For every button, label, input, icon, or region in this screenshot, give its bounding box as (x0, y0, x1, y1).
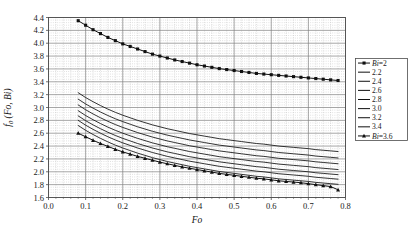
x-tick-label: 0.6 (266, 201, 277, 211)
data-point-marker (299, 76, 302, 79)
y-tick-label: 2.6 (33, 128, 44, 138)
data-point-marker (337, 79, 340, 82)
data-point-marker (158, 55, 161, 58)
data-point-marker (151, 53, 154, 56)
legend-marker-square (363, 62, 366, 65)
y-tick-label: 2.2 (33, 154, 44, 164)
data-point-marker (84, 24, 87, 27)
data-point-marker (203, 64, 206, 67)
data-point-marker (240, 70, 243, 73)
data-point-marker (329, 78, 332, 81)
data-point-marker (277, 74, 280, 77)
x-tick-label: 0.5 (229, 201, 240, 211)
y-axis-title: f0 (Fo, Bi) (3, 88, 14, 126)
x-tick-label: 0.7 (303, 201, 314, 211)
y-tick-label: 3.2 (33, 90, 44, 100)
data-point-marker (188, 62, 191, 65)
data-point-marker (166, 56, 169, 59)
data-point-marker (77, 19, 80, 22)
x-tick-label: 0.2 (117, 201, 128, 211)
data-point-marker (292, 75, 295, 78)
y-tick-label: 4.2 (33, 25, 44, 35)
data-point-marker (210, 66, 213, 69)
data-point-marker (233, 69, 236, 72)
data-point-marker (121, 42, 124, 45)
legend-label: 2.8 (372, 95, 382, 104)
data-point-marker (195, 63, 198, 66)
legend-label: 2.4 (372, 77, 382, 86)
data-point-marker (247, 71, 250, 74)
legend-label: Bi=3.6 (372, 132, 393, 141)
y-tick-label: 3.6 (33, 64, 44, 74)
data-point-marker (262, 73, 265, 76)
data-point-marker (92, 28, 95, 31)
legend-label: 3.4 (372, 122, 382, 131)
x-tick-label: 0.1 (80, 201, 91, 211)
data-point-marker (218, 67, 221, 70)
y-tick-label: 4.0 (33, 38, 44, 48)
chart-figure: 0.00.10.20.30.40.50.60.70.81.61.82.02.22… (0, 0, 418, 232)
data-point-marker (173, 58, 176, 61)
data-point-marker (143, 50, 146, 53)
data-point-marker (314, 77, 317, 80)
y-tick-label: 2.4 (33, 141, 44, 151)
y-tick-label: 1.8 (33, 180, 44, 190)
x-tick-label: 0.0 (43, 201, 54, 211)
legend: Bi=22.22.42.62.83.03.23.4Bi=3.6 (356, 59, 408, 141)
legend-label: 2.6 (372, 86, 382, 95)
data-point-marker (225, 68, 228, 71)
data-point-marker (106, 36, 109, 39)
data-point-marker (307, 76, 310, 79)
data-point-marker (270, 73, 273, 76)
y-tick-label: 2.0 (33, 167, 44, 177)
data-point-marker (181, 60, 184, 63)
y-tick-label: 3.8 (33, 51, 44, 61)
y-tick-label: 2.8 (33, 115, 44, 125)
data-point-marker (99, 32, 102, 35)
data-point-marker (136, 47, 139, 50)
y-tick-label: 3.0 (33, 103, 44, 113)
x-tick-label: 0.3 (155, 201, 166, 211)
legend-label: 2.2 (372, 68, 382, 77)
line-chart: 0.00.10.20.30.40.50.60.70.81.61.82.02.22… (0, 0, 418, 232)
legend-label: 3.2 (372, 113, 382, 122)
x-axis-title: Fo (191, 215, 203, 225)
data-point-marker (114, 39, 117, 42)
data-point-marker (285, 74, 288, 77)
x-tick-label: 0.8 (340, 201, 351, 211)
legend-label: Bi=2 (372, 59, 387, 68)
y-tick-label: 4.4 (33, 13, 44, 23)
data-point-marker (129, 45, 132, 48)
x-tick-label: 0.4 (192, 201, 203, 211)
data-point-marker (322, 78, 325, 81)
y-tick-label: 1.6 (33, 193, 44, 203)
data-point-marker (255, 72, 258, 75)
y-axis-title-text: f0 (Fo, Bi) (3, 88, 14, 126)
legend-label: 3.0 (372, 104, 382, 113)
y-tick-label: 3.4 (33, 77, 44, 87)
